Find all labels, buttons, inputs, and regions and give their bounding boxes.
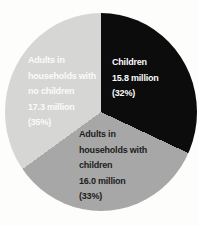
slice-label-line: (33%) — [79, 189, 147, 205]
slice-label-line: (32%) — [112, 86, 159, 102]
slice-label-line: 15.8 million — [112, 71, 159, 87]
slice-label-line: 16.0 million — [79, 174, 147, 190]
slice-label-line: (35%) — [28, 115, 96, 131]
slice-label-line: households with — [28, 69, 96, 85]
slice-label-children: Children15.8 million(32%) — [112, 55, 159, 102]
slice-label-adults-no-children: Adults inhouseholds withno children17.3 … — [28, 53, 96, 131]
slice-label-line: children — [79, 158, 147, 174]
slice-label-line: no children — [28, 84, 96, 100]
pie-chart-figure: Children15.8 million(32%) Adults inhouse… — [0, 0, 199, 226]
slice-label-line: Adults in — [28, 53, 96, 69]
slice-label-line: 17.3 million — [28, 100, 96, 116]
slice-label-adults-with-children: Adults inhouseholds withchildren16.0 mil… — [79, 127, 147, 205]
slice-label-line: Children — [112, 55, 159, 71]
slice-label-line: households with — [79, 143, 147, 159]
